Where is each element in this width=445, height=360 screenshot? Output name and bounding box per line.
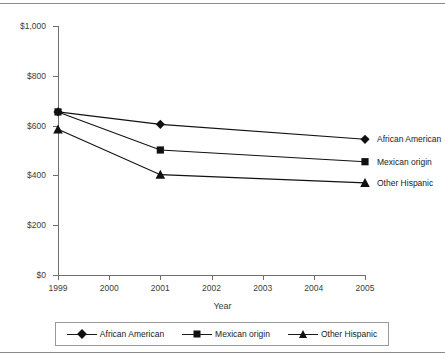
series-line bbox=[58, 129, 365, 183]
legend-item[interactable]: African American bbox=[67, 328, 164, 340]
diamond-marker bbox=[156, 120, 165, 129]
x-axis-title: Year bbox=[0, 301, 445, 311]
legend-label: African American bbox=[100, 329, 164, 339]
triangle-marker bbox=[360, 178, 370, 187]
chart-legend: African AmericanMexican originOther Hisp… bbox=[55, 322, 389, 346]
square-marker bbox=[157, 146, 164, 153]
triangle-icon bbox=[299, 330, 307, 338]
y-tick-label: $1,000 bbox=[0, 21, 46, 31]
square-marker bbox=[361, 158, 368, 165]
legend-item[interactable]: Mexican origin bbox=[182, 328, 270, 340]
diamond-marker bbox=[360, 135, 369, 144]
y-tick-label: $800 bbox=[0, 71, 46, 81]
y-tick-mark bbox=[53, 26, 58, 27]
x-tick-label: 2001 bbox=[151, 283, 170, 293]
square-icon bbox=[194, 331, 201, 338]
series-line bbox=[58, 112, 365, 139]
series-inline-label: Mexican origin bbox=[377, 157, 432, 167]
y-tick-label: $200 bbox=[0, 220, 46, 230]
y-tick-mark bbox=[53, 126, 58, 127]
legend-key bbox=[67, 328, 97, 340]
x-tick-label: 2002 bbox=[202, 283, 221, 293]
x-tick-label: 2005 bbox=[356, 283, 375, 293]
series-inline-label: Other Hispanic bbox=[377, 178, 433, 188]
x-tick-label: 2004 bbox=[304, 283, 323, 293]
legend-label: Other Hispanic bbox=[321, 329, 377, 339]
y-axis-line bbox=[58, 26, 59, 276]
x-tick-mark bbox=[314, 275, 315, 280]
x-tick-mark bbox=[160, 275, 161, 280]
figure-top-rule bbox=[0, 3, 445, 4]
x-tick-label: 2003 bbox=[253, 283, 272, 293]
series-line bbox=[58, 112, 365, 162]
triangle-marker bbox=[156, 170, 166, 179]
x-tick-mark bbox=[109, 275, 110, 280]
y-tick-mark bbox=[53, 76, 58, 77]
x-tick-mark bbox=[212, 275, 213, 280]
series-inline-label: African American bbox=[377, 134, 441, 144]
y-tick-label: $400 bbox=[0, 170, 46, 180]
y-tick-label: $0 bbox=[0, 270, 46, 280]
figure-bottom-rule bbox=[0, 352, 445, 353]
x-tick-mark bbox=[365, 275, 366, 280]
y-tick-label: $600 bbox=[0, 121, 46, 131]
legend-item[interactable]: Other Hispanic bbox=[288, 328, 377, 340]
chart-figure: $1,000$800$600$400$200$0 199920002001200… bbox=[0, 0, 445, 360]
x-tick-label: 1999 bbox=[49, 283, 68, 293]
y-tick-mark bbox=[53, 225, 58, 226]
x-tick-mark bbox=[263, 275, 264, 280]
legend-key bbox=[182, 328, 212, 340]
x-tick-label: 2000 bbox=[100, 283, 119, 293]
x-tick-mark bbox=[58, 275, 59, 280]
diamond-icon bbox=[77, 329, 87, 339]
legend-label: Mexican origin bbox=[215, 329, 270, 339]
legend-key bbox=[288, 328, 318, 340]
y-tick-mark bbox=[53, 175, 58, 176]
